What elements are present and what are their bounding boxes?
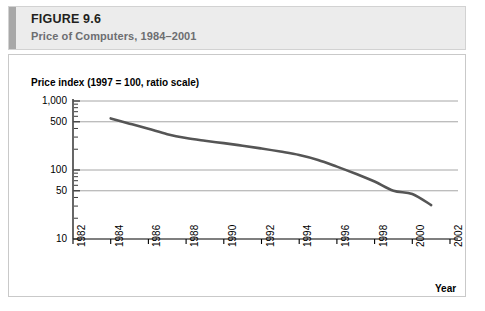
chart-svg [9,55,467,298]
data-line [111,118,431,205]
y-tick-label: 1,000 [23,96,67,106]
figure-root: FIGURE 9.6 Price of Computers, 1984–2001… [0,0,485,311]
x-tick-label: 1988 [190,225,200,247]
plot-area: 1,0005001005010 198219841986198819901992… [9,55,467,298]
x-tick-label: 1996 [341,225,351,247]
y-tick-label: 50 [23,186,67,196]
figure-number: FIGURE 9.6 [31,12,101,26]
figure-subtitle: Price of Computers, 1984–2001 [31,30,197,42]
x-tick-label: 2002 [454,225,464,247]
x-tick-label: 2000 [416,225,426,247]
x-axis-title: Year [435,283,456,294]
x-tick-label: 1992 [266,225,276,247]
x-tick-label: 1998 [379,225,389,247]
figure-panel: Price index (1997 = 100, ratio scale) 1,… [8,54,466,297]
header-accent-bar [9,7,16,49]
x-tick-label: 1982 [77,225,87,247]
x-tick-label: 1994 [303,225,313,247]
y-tick-label: 10 [23,234,67,244]
y-tick-label: 100 [23,165,67,175]
x-tick-label: 1984 [115,225,125,247]
x-tick-label: 1986 [152,225,162,247]
figure-header: FIGURE 9.6 Price of Computers, 1984–2001 [8,6,466,50]
figure-number-text: FIGURE 9.6 [31,12,101,26]
x-tick-label: 1990 [228,225,238,247]
y-tick-label: 500 [23,117,67,127]
